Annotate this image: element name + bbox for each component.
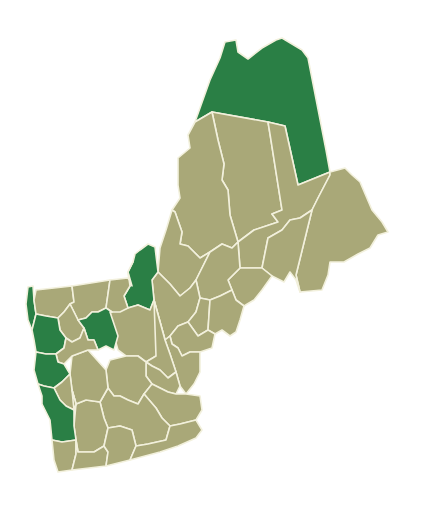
county-layer — [26, 38, 388, 472]
county-sullivan — [70, 350, 108, 404]
county-map — [0, 0, 425, 524]
